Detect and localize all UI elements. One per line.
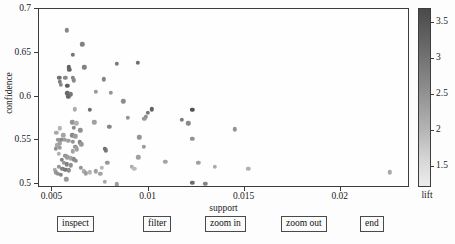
scatter-point (68, 163, 72, 167)
scatter-point (190, 108, 194, 112)
button-filter[interactable]: filter (143, 216, 171, 232)
scatter-point (98, 172, 102, 176)
y-tick-label: 0.5 (0, 178, 31, 188)
scatter-point (75, 147, 79, 151)
scatter-point (388, 170, 392, 174)
colorbar-tick-label: 2 (436, 125, 441, 135)
scatter-point (82, 65, 86, 69)
scatter-point (136, 155, 140, 159)
scatter-point (57, 141, 61, 145)
scatter-point (115, 182, 119, 186)
scatter-point (79, 142, 83, 146)
scatter-point (74, 159, 78, 163)
scatter-point (65, 28, 69, 32)
scatter-point (92, 120, 96, 124)
scatter-point (103, 180, 107, 184)
scatter-point (186, 121, 190, 125)
x-tick-label: 0.005 (41, 191, 62, 202)
scatter-point (196, 160, 200, 164)
colorbar-tick-mark (431, 130, 434, 131)
x-tick-label: 0.01 (139, 191, 156, 202)
y-tick-label: 0.65 (0, 47, 31, 57)
scatter-point (72, 125, 76, 129)
control-button-bar: inspectfilterzoom inzoom outend (0, 216, 455, 232)
scatter-point (66, 168, 70, 172)
scatter-point (94, 90, 98, 94)
colorbar-gradient (418, 8, 431, 187)
scatter-point (203, 181, 207, 185)
colorbar-tick-mark (431, 166, 434, 167)
scatter-point (142, 117, 146, 121)
scatter-point (104, 148, 108, 152)
scatter-point (56, 152, 60, 156)
button-zoom-out[interactable]: zoom out (281, 216, 327, 232)
scatter-point (59, 173, 63, 177)
colorbar-tick-mark (431, 22, 434, 23)
scatter-point (232, 127, 236, 131)
scatter-point (109, 90, 113, 94)
scatter-point (163, 160, 167, 164)
scatter-point (121, 99, 125, 103)
scatter-point (137, 135, 141, 139)
scatter-point (78, 128, 82, 132)
colorbar-tick-label: 1.5 (436, 161, 448, 171)
scatter-point (136, 61, 140, 65)
scatter-point (100, 166, 104, 170)
colorbar-tick-label: 3 (436, 53, 441, 63)
scatter-point (66, 139, 70, 143)
scatter-point (190, 137, 194, 141)
scatter-plot-figure: confidence 0.50.550.60.650.7 0.0050.010.… (0, 0, 455, 244)
scatter-point (73, 134, 77, 138)
colorbar-tick-mark (431, 58, 434, 59)
colorbar-tick-label: 2.5 (436, 89, 448, 99)
scatter-point (179, 118, 183, 122)
y-tick-label: 0.7 (0, 3, 31, 13)
scatter-point (213, 165, 217, 169)
button-end[interactable]: end (360, 216, 384, 232)
x-tick-label: 0.02 (331, 191, 348, 202)
scatter-point (58, 126, 62, 130)
scatter-points-layer (39, 9, 408, 186)
scatter-point (72, 78, 76, 82)
scatter-point (59, 83, 63, 87)
colorbar-tick-label: 3.5 (436, 18, 448, 28)
y-tick-label: 0.6 (0, 91, 31, 101)
scatter-point (88, 108, 92, 112)
scatter-point (80, 42, 84, 46)
scatter-point (67, 68, 71, 72)
colorbar-tick-mark (431, 94, 434, 95)
scatter-point (63, 76, 67, 80)
plot-area[interactable] (38, 8, 409, 187)
x-axis-title: support (0, 203, 447, 213)
scatter-point (126, 116, 130, 120)
scatter-point (65, 83, 69, 87)
scatter-point (71, 139, 75, 143)
button-zoom-in[interactable]: zoom in (205, 216, 246, 232)
scatter-point (66, 95, 70, 99)
scatter-point (73, 107, 77, 111)
scatter-point (102, 77, 106, 81)
scatter-point (190, 181, 194, 185)
button-inspect[interactable]: inspect (57, 216, 94, 232)
scatter-point (246, 167, 250, 171)
scatter-point (105, 160, 109, 164)
scatter-point (107, 125, 111, 129)
scatter-point (70, 149, 74, 153)
scatter-point (64, 177, 68, 181)
scatter-point (87, 170, 91, 174)
colorbar-title: lift (417, 190, 437, 200)
scatter-point (150, 107, 154, 111)
scatter-point (54, 131, 58, 135)
scatter-point (115, 62, 119, 66)
scatter-point (132, 167, 136, 171)
x-tick-label: 0.015 (233, 191, 254, 202)
scatter-point (142, 145, 146, 149)
y-tick-label: 0.55 (0, 134, 31, 144)
scatter-point (70, 53, 74, 57)
scatter-point (58, 146, 62, 150)
